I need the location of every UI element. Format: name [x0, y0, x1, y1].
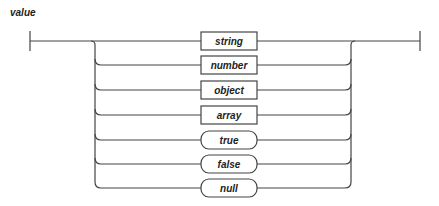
- alternative-label-null: null: [220, 183, 238, 194]
- branch-in-line: [95, 84, 201, 90]
- branch-in-line: [95, 134, 201, 140]
- alternative-label-string: string: [215, 36, 243, 47]
- right-rail: [351, 41, 355, 182]
- alternative-label-false: false: [218, 159, 241, 170]
- branch-in-line: [95, 182, 201, 188]
- branch-out-line: [257, 109, 351, 115]
- alternative-label-number: number: [211, 60, 249, 71]
- railroad-diagram: stringnumberobjectarraytruefalsenull: [0, 0, 439, 206]
- branch-out-line: [257, 182, 351, 188]
- alternative-label-array: array: [217, 110, 242, 121]
- branch-out-line: [257, 59, 351, 65]
- branch-out-line: [257, 134, 351, 140]
- branch-in-line: [95, 59, 201, 65]
- alternative-label-object: object: [214, 85, 244, 96]
- branch-out-line: [257, 84, 351, 90]
- branch-in-line: [95, 109, 201, 115]
- left-rail: [91, 41, 95, 182]
- branch-in-line: [95, 158, 201, 164]
- alternative-label-true: true: [220, 135, 239, 146]
- branch-out-line: [257, 158, 351, 164]
